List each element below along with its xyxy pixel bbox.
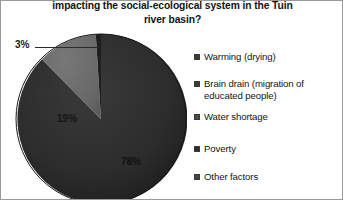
legend-item-poverty[interactable]: Poverty: [194, 143, 342, 155]
legend-label: Poverty: [204, 143, 236, 155]
legend-label: Brain drain (migration of educated peopl…: [204, 78, 342, 101]
legend-swatch-icon: [194, 146, 200, 152]
chart-title-line-1: impacting the social-ecological system i…: [19, 0, 326, 13]
chart-title-line-2: river basin?: [19, 13, 326, 27]
pie-label-78: 78%: [121, 156, 141, 167]
chart-title: impacting the social-ecological system i…: [19, 0, 326, 26]
pie-plot-area: 19% 78%: [15, 33, 187, 199]
pie-label-19: 19%: [57, 113, 77, 124]
legend-label: Other factors: [204, 171, 258, 183]
legend-swatch-icon: [194, 114, 200, 120]
legend-item-water-shortage[interactable]: Water shortage: [194, 111, 342, 123]
legend-label: Warming (drying): [204, 51, 276, 63]
pie-chart-figure: impacting the social-ecological system i…: [0, 0, 343, 200]
pie-svg: 19% 78%: [15, 33, 187, 199]
legend-swatch-icon: [194, 81, 200, 87]
legend-swatch-icon: [194, 174, 200, 180]
legend-item-brain-drain[interactable]: Brain drain (migration of educated peopl…: [194, 78, 342, 101]
legend-label: Water shortage: [204, 111, 268, 123]
pie-leader-line-3: [35, 47, 99, 48]
pie-label-3: 3%: [15, 39, 29, 50]
legend-item-other-factors[interactable]: Other factors: [194, 171, 342, 183]
legend-swatch-icon: [194, 54, 200, 60]
legend-item-warming[interactable]: Warming (drying): [194, 51, 342, 63]
